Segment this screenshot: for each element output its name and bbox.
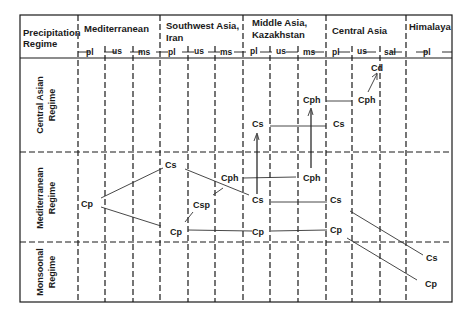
regime-label-central-asian: Central Asian Regime bbox=[35, 76, 57, 134]
svg-text:Regime: Regime bbox=[47, 182, 57, 215]
node-cp-mediterranean: Cp bbox=[81, 199, 93, 209]
svg-text:ms: ms bbox=[138, 47, 151, 57]
region-header-southwest-asia: Southwest Asia, bbox=[166, 20, 239, 31]
node-cp-himalaya: Cp bbox=[425, 279, 437, 289]
node-cd: Cd bbox=[371, 63, 383, 73]
node-cs-himalaya: Cs bbox=[426, 253, 438, 263]
node-csp: Csp bbox=[193, 200, 211, 210]
node-cs-central-asia: Cs bbox=[330, 195, 342, 205]
node-cs-central-asia-upper: Cs bbox=[333, 119, 345, 129]
svg-text:pl: pl bbox=[250, 46, 258, 56]
svg-text:sal: sal bbox=[384, 47, 396, 57]
svg-text:ms: ms bbox=[220, 47, 233, 57]
node-cp-southwest-asia: Cp bbox=[170, 227, 182, 237]
node-cs-middle-asia-upper: Cs bbox=[252, 119, 264, 129]
nodes: Cd Cph Cph Cs Cs Cs Cph Cph Cp Csp Cs Cs… bbox=[81, 63, 438, 289]
node-cp-central-asia: Cp bbox=[330, 225, 342, 235]
svg-text:pl: pl bbox=[86, 47, 94, 57]
region-header-central-asia: Central Asia bbox=[332, 25, 388, 36]
node-cph-central-asia: Cph bbox=[358, 95, 376, 105]
node-cph-middle-asia-upper: Cph bbox=[303, 95, 321, 105]
svg-text:ms: ms bbox=[303, 47, 316, 57]
svg-text:Mediterranean: Mediterranean bbox=[35, 167, 45, 229]
node-cph-middle-asia: Cph bbox=[303, 173, 321, 183]
svg-text:us: us bbox=[112, 46, 122, 56]
node-cs-southwest-asia: Cs bbox=[165, 160, 177, 170]
svg-text:us: us bbox=[194, 46, 204, 56]
svg-text:Monsoonal: Monsoonal bbox=[35, 248, 45, 296]
svg-text:Regime: Regime bbox=[47, 256, 57, 289]
region-header-mediterranean: Mediterranean bbox=[84, 23, 149, 34]
node-cs-middle-asia: Cs bbox=[252, 195, 264, 205]
svg-text:us: us bbox=[276, 46, 286, 56]
region-header-southwest-asia-line2: Iran bbox=[166, 32, 184, 43]
svg-text:pl: pl bbox=[168, 47, 176, 57]
svg-text:Central Asian: Central Asian bbox=[35, 76, 45, 134]
subcolumn-labels: pl us ms pl us ms pl us ms pl us sal pl bbox=[86, 46, 431, 57]
regime-label-monsoonal: Monsoonal Regime bbox=[35, 248, 57, 296]
region-header-himalaya: Himalaya bbox=[409, 21, 451, 32]
svg-text:pl: pl bbox=[332, 47, 340, 57]
node-cp-middle-asia: Cp bbox=[252, 227, 264, 237]
corner-label-line2: Regime bbox=[23, 38, 57, 49]
svg-text:pl: pl bbox=[423, 47, 431, 57]
svg-text:us: us bbox=[357, 46, 367, 56]
region-header-middle-asia: Middle Asia, bbox=[252, 17, 307, 28]
corner-label-line1: Precipitation bbox=[23, 27, 81, 38]
region-header-middle-asia-line2: Kazakhstan bbox=[252, 29, 305, 40]
vegetation-migration-diagram: Precipitation Regime Mediterranean South… bbox=[0, 0, 470, 315]
node-cph-southwest-asia: Cph bbox=[221, 173, 239, 183]
regime-label-mediterranean: Mediterranean Regime bbox=[35, 167, 57, 229]
svg-text:Regime: Regime bbox=[47, 89, 57, 122]
